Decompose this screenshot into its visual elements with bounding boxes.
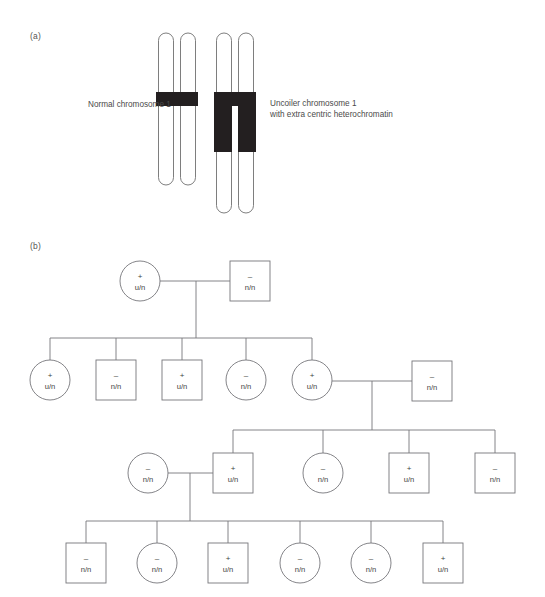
- individual-II-3[interactable]: + u/n: [162, 360, 202, 400]
- normal-chromosome-caption: Normal chromosome 1: [88, 99, 171, 110]
- individual-IV-5[interactable]: – n/n: [351, 543, 391, 583]
- individual-IV-6[interactable]: + u/n: [423, 543, 463, 583]
- genotype-label: n/n: [143, 475, 154, 484]
- individual-IV-1[interactable]: – n/n: [66, 543, 106, 583]
- genotype-label: n/n: [152, 565, 163, 574]
- individual-IV-3[interactable]: + u/n: [208, 543, 248, 583]
- symbol-square[interactable]: [475, 453, 515, 493]
- sign-label: –: [298, 554, 303, 563]
- individual-I-1[interactable]: + u/n: [120, 261, 160, 301]
- genotype-label: n/n: [245, 283, 256, 292]
- individual-III-2[interactable]: + u/n: [213, 453, 253, 493]
- genotype-label: n/n: [490, 475, 501, 484]
- symbol-circle[interactable]: [280, 543, 320, 583]
- uncoiler-chromosome-1: [214, 33, 256, 213]
- sign-label: +: [48, 371, 53, 380]
- individual-IV-4[interactable]: – n/n: [280, 543, 320, 583]
- sign-label: –: [146, 464, 151, 473]
- sign-label: –: [369, 554, 374, 563]
- pedigree-connectors: [50, 281, 495, 543]
- genotype-label: u/n: [228, 475, 239, 484]
- genotype-label: u/n: [404, 475, 415, 484]
- genotype-label: u/n: [177, 382, 188, 391]
- sign-label: +: [441, 554, 446, 563]
- symbol-circle[interactable]: [292, 360, 332, 400]
- chromosome-diagram: [0, 20, 545, 235]
- symbol-circle[interactable]: [303, 453, 343, 493]
- genotype-label: n/n: [295, 565, 306, 574]
- sign-label: –: [493, 464, 498, 473]
- symbol-square[interactable]: [412, 361, 452, 401]
- symbol-square[interactable]: [66, 543, 106, 583]
- individual-III-4[interactable]: + u/n: [389, 453, 429, 493]
- symbol-square[interactable]: [389, 453, 429, 493]
- sign-label: +: [231, 464, 236, 473]
- symbol-square[interactable]: [208, 543, 248, 583]
- genotype-label: u/n: [307, 382, 318, 391]
- sign-label: –: [244, 371, 249, 380]
- symbol-circle[interactable]: [120, 261, 160, 301]
- sign-label: –: [155, 554, 160, 563]
- sign-label: +: [138, 272, 143, 281]
- genotype-label: n/n: [427, 383, 438, 392]
- symbol-square[interactable]: [96, 360, 136, 400]
- uncoiler-heterochromatin-block: [214, 92, 256, 152]
- individual-II-1[interactable]: + u/n: [30, 360, 70, 400]
- sign-label: +: [407, 464, 412, 473]
- individual-III-3[interactable]: – n/n: [303, 453, 343, 493]
- individual-II-5[interactable]: + u/n: [292, 360, 332, 400]
- genotype-label: n/n: [81, 565, 92, 574]
- sign-label: –: [321, 464, 326, 473]
- genotype-label: u/n: [135, 283, 146, 292]
- sign-label: –: [248, 272, 253, 281]
- genotype-label: n/n: [318, 475, 329, 484]
- sign-label: –: [430, 372, 435, 381]
- sign-label: +: [226, 554, 231, 563]
- pedigree-chart: + u/n – n/n + u/n – n/n +: [0, 250, 545, 597]
- individual-II-4[interactable]: – n/n: [226, 360, 266, 400]
- individual-IV-2[interactable]: – n/n: [137, 543, 177, 583]
- symbol-square[interactable]: [213, 453, 253, 493]
- generation-IV: – n/n – n/n + u/n – n/n – n/n: [66, 543, 463, 583]
- symbol-square[interactable]: [423, 543, 463, 583]
- genotype-label: n/n: [241, 382, 252, 391]
- individual-I-2[interactable]: – n/n: [230, 261, 270, 301]
- symbol-circle[interactable]: [30, 360, 70, 400]
- symbol-circle[interactable]: [226, 360, 266, 400]
- individual-II-2[interactable]: – n/n: [96, 360, 136, 400]
- figure-root: (a) Normal chromosome 1 Uncoiler chromos…: [0, 0, 545, 597]
- generation-II: + u/n – n/n + u/n – n/n + u/n: [30, 360, 452, 401]
- sign-label: –: [114, 371, 119, 380]
- symbol-square[interactable]: [162, 360, 202, 400]
- symbol-circle[interactable]: [351, 543, 391, 583]
- genotype-label: n/n: [111, 382, 122, 391]
- sign-label: +: [180, 371, 185, 380]
- normal-chromatid-right: [181, 33, 196, 185]
- uncoiler-chromosome-caption: Uncoiler chromosome 1 with extra centric…: [270, 98, 393, 120]
- genotype-label: u/n: [45, 382, 56, 391]
- individual-III-1[interactable]: – n/n: [128, 453, 168, 493]
- individual-II-6[interactable]: – n/n: [412, 361, 452, 401]
- genotype-label: u/n: [438, 565, 449, 574]
- symbol-circle[interactable]: [137, 543, 177, 583]
- sign-label: +: [310, 371, 315, 380]
- symbol-circle[interactable]: [128, 453, 168, 493]
- genotype-label: n/n: [366, 565, 377, 574]
- individual-III-5[interactable]: – n/n: [475, 453, 515, 493]
- genotype-label: u/n: [223, 565, 234, 574]
- sign-label: –: [84, 554, 89, 563]
- symbol-square[interactable]: [230, 261, 270, 301]
